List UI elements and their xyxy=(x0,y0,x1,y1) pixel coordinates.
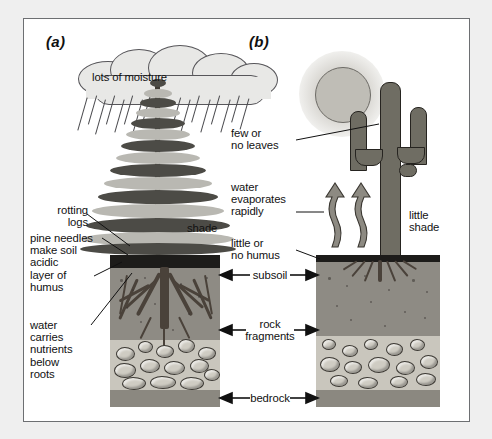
label-water-carries-nutrients: water carries nutrients below roots xyxy=(30,319,72,380)
label-pine-needles: pine needles make soil acidic xyxy=(30,232,93,269)
label-little-or-no-humus: little or no humus xyxy=(231,237,280,261)
figure-frame: (a) (b) xyxy=(23,18,470,422)
label-layer-of-humus: layer of humus xyxy=(30,269,66,293)
label-few-or-no-leaves: few or no leaves xyxy=(231,127,278,151)
label-water-evaporates-rapidly: water evaporates rapidly xyxy=(231,181,286,218)
label-rock-fragments: rock fragments xyxy=(230,318,310,342)
label-rotting-logs: rotting logs xyxy=(24,204,88,228)
label-subsoil: subsoil xyxy=(230,269,310,281)
label-bedrock: bedrock xyxy=(230,392,310,404)
label-little-shade: little shade xyxy=(409,209,439,233)
label-lots-of-moisture: lots of moisture xyxy=(92,71,167,83)
figure-root: (a) (b) xyxy=(0,0,492,439)
label-shade: shade xyxy=(187,222,217,234)
